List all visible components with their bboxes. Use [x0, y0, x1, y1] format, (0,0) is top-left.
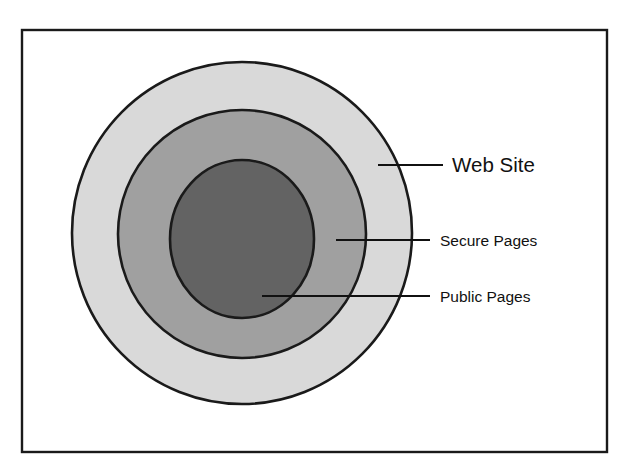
label-public-pages: Public Pages — [440, 288, 531, 305]
label-web-site: Web Site — [452, 153, 535, 176]
diagram-canvas: Web Site Secure Pages Public Pages — [0, 0, 629, 467]
label-secure-pages: Secure Pages — [440, 232, 538, 249]
concentric-circles-diagram: Web Site Secure Pages Public Pages — [0, 0, 629, 467]
ring-public-pages[interactable] — [170, 160, 314, 318]
